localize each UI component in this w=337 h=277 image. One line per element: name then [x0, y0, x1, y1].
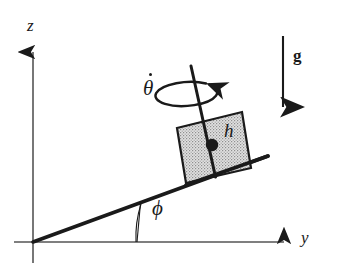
spin-rate-label: θ [143, 76, 153, 100]
spin-rate-label-group: θ [143, 78, 153, 99]
diagram-svg [0, 0, 337, 277]
incline-angle-label: ϕ [152, 198, 163, 219]
center-of-mass-dot [206, 139, 218, 151]
spin-rate-overdot-icon [149, 73, 152, 76]
angle-phi-group [136, 203, 141, 242]
block-height-label: h [224, 121, 234, 140]
rotation-ellipse-arc [155, 82, 217, 106]
z-axis-label: z [27, 17, 34, 34]
gravity-label: g [293, 47, 302, 64]
y-axis-label: y [301, 229, 309, 246]
figure-canvas: z y g ϕ h θ [0, 0, 337, 277]
